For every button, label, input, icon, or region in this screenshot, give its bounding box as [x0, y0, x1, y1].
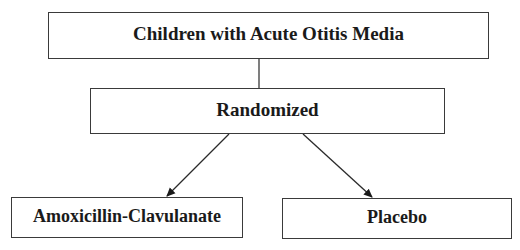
node-label: Amoxicillin-Clavulanate: [33, 206, 221, 227]
node-label: Children with Acute Otitis Media: [133, 23, 404, 45]
node-children-with-acute-otitis-media: Children with Acute Otitis Media: [48, 12, 489, 59]
node-label: Placebo: [367, 207, 427, 228]
arrow-to-placebo: [303, 134, 372, 197]
node-placebo: Placebo: [282, 198, 512, 239]
node-amoxicillin-clavulanate: Amoxicillin-Clavulanate: [11, 197, 243, 238]
node-label: Randomized: [216, 99, 318, 121]
node-randomized: Randomized: [90, 88, 445, 134]
arrow-to-amoxicillin-clavulanate: [167, 134, 229, 196]
